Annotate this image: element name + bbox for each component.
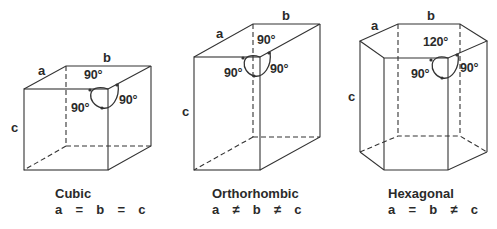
orthorhombic-axis-b-label: b <box>282 8 290 23</box>
orthorhombic-angle-top: 90° <box>257 33 275 47</box>
hexagonal-angle-right: 90° <box>460 61 478 75</box>
hexagonal-title: Hexagonal <box>388 186 454 201</box>
hexagonal-axis-a-label: a <box>371 18 378 33</box>
orthorhombic-axis-c-label: c <box>182 104 189 119</box>
orthorhombic-angle-right: 90° <box>270 62 288 76</box>
cubic-relation: a = b = c <box>55 202 145 217</box>
orthorhombic-relation: a ≠ b ≠ c <box>212 202 302 217</box>
orthorhombic-title: Orthorhombic <box>212 186 299 201</box>
cubic-angle-right: 90° <box>119 93 137 107</box>
cubic-angle-top: 90° <box>84 68 102 82</box>
cubic-axis-a-label: a <box>38 63 45 78</box>
hexagonal-axis-c-label: c <box>348 89 355 104</box>
orthorhombic-angle-left: 90° <box>224 66 242 80</box>
cubic-axis-b-label: b <box>103 50 111 65</box>
orthorhombic-axis-a-label: a <box>216 26 223 41</box>
cubic-title: Cubic <box>55 186 91 201</box>
hexagonal-relation: a = b ≠ c <box>388 202 478 217</box>
cubic-axis-c-label: c <box>11 120 18 135</box>
hexagonal-angle-top: 120° <box>423 35 448 49</box>
hexagonal-axis-b-label: b <box>427 8 435 23</box>
hexagonal-angle-left: 90° <box>411 67 429 81</box>
cubic-angle-left: 90° <box>71 101 89 115</box>
